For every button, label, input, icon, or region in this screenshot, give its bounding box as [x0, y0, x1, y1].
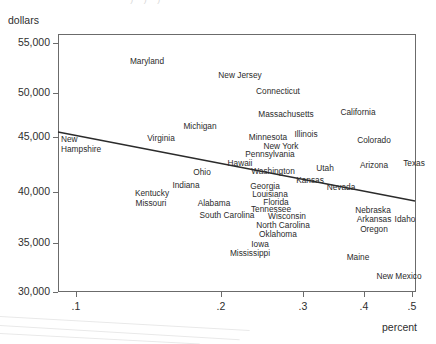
- y-axis-tick-label: 40,000: [0, 185, 50, 197]
- x-axis-tick: [303, 292, 304, 297]
- y-axis-tick-label: 30,000: [0, 285, 50, 297]
- x-axis-tick-label: .1: [72, 300, 81, 312]
- y-axis-title: dollars: [8, 14, 39, 26]
- clipped-header-artifact: ' ) ) ): [118, 0, 164, 4]
- x-axis-tick: [221, 292, 222, 297]
- y-axis-tick-label: 35,000: [0, 236, 50, 248]
- x-axis-tick-label: .4: [360, 300, 369, 312]
- y-axis-tick-label: 45,000: [0, 130, 50, 142]
- regression-line-segment: [58, 132, 415, 201]
- x-axis-tick-label: .2: [217, 300, 226, 312]
- x-axis-tick: [76, 292, 77, 297]
- x-axis-tick: [412, 292, 413, 297]
- y-axis-tick: [53, 292, 58, 293]
- x-axis-tick-label: .5: [408, 300, 417, 312]
- y-axis-tick-label: 55,000: [0, 36, 50, 48]
- regression-line: [58, 34, 416, 292]
- y-axis-tick-label: 50,000: [0, 86, 50, 98]
- x-axis-title: percent: [382, 321, 417, 333]
- x-axis-tick: [364, 292, 365, 297]
- x-axis-tick-label: .3: [299, 300, 308, 312]
- scan-streak: [0, 316, 250, 331]
